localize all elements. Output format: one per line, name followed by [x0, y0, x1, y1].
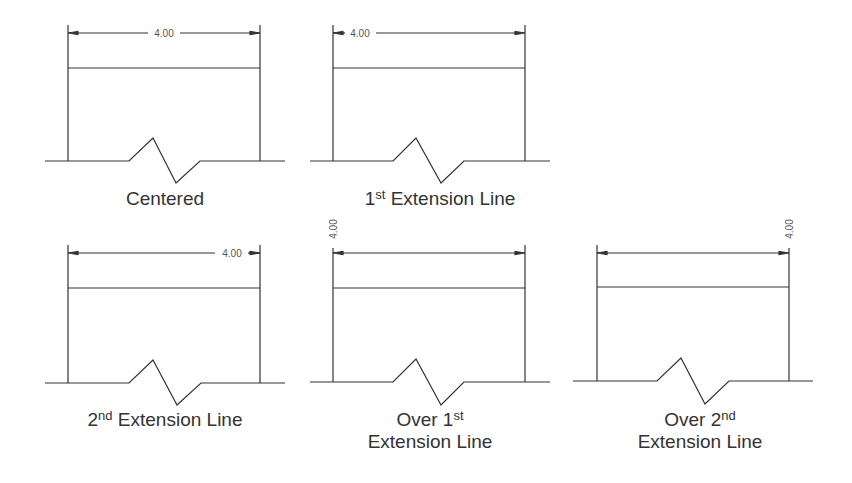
panel-first-extension-drawing	[310, 25, 550, 183]
caption-first-extension: 1st Extension Line	[330, 188, 550, 210]
caption-rest: Extension Line	[385, 188, 515, 209]
dimension-text-second-extension: 4.00	[222, 248, 242, 259]
caption-sup: st	[375, 187, 385, 202]
dimension-text-over-second: 4.00	[784, 219, 795, 239]
caption-sup: nd	[98, 408, 112, 423]
caption-line: Centered	[126, 188, 204, 209]
caption-line-2: Extension Line	[340, 431, 520, 453]
panel-second-extension-drawing	[45, 245, 285, 405]
dimension-text-over-first: 4.00	[328, 219, 339, 239]
caption-ordinal: Over 1	[396, 409, 453, 430]
panel-centered-drawing	[45, 25, 285, 183]
caption-line-1: Over 2nd	[610, 409, 790, 431]
caption-line-1: Over 1st	[340, 409, 520, 431]
caption-ordinal: Over 2	[664, 409, 721, 430]
caption-line-2: Extension Line	[610, 431, 790, 453]
caption-over-second: Over 2nd Extension Line	[610, 409, 790, 453]
dimension-text-centered: 4.00	[154, 28, 174, 39]
panel-over-second-drawing	[573, 245, 813, 404]
panel-over-first-drawing	[310, 245, 550, 405]
caption-rest: Extension Line	[113, 409, 243, 430]
caption-sup: st	[453, 408, 463, 423]
caption-sup: nd	[721, 408, 735, 423]
caption-ordinal: 1	[365, 188, 376, 209]
caption-centered: Centered	[100, 188, 230, 210]
caption-second-extension: 2nd Extension Line	[55, 409, 275, 431]
caption-over-first: Over 1st Extension Line	[340, 409, 520, 453]
caption-ordinal: 2	[88, 409, 99, 430]
dimension-text-first-extension: 4.00	[350, 28, 370, 39]
